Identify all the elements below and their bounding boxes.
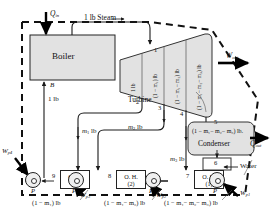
- w-p4-label: Wp4: [2, 148, 12, 155]
- state-point-8: 8: [108, 172, 111, 179]
- q-in-label: Qin: [50, 10, 59, 19]
- boiler-label: Boiler: [52, 52, 75, 61]
- pump-symbol-p3: P: [72, 188, 76, 195]
- m2-unit: lb: [135, 123, 142, 131]
- open-heater-2-name: O. H.: [117, 173, 145, 180]
- pump-1-hub: [215, 178, 221, 184]
- state-point-2: 2: [136, 98, 139, 105]
- pump-symbol-p2: P: [149, 188, 153, 195]
- bottom-flow-label-1: (1 − m₁) lb: [32, 200, 61, 207]
- water-label: Water: [240, 163, 257, 170]
- extraction-m3-label: m3 lb: [170, 156, 184, 163]
- turbine-stage-label-1: 1 lb: [130, 84, 136, 92]
- w-p1-subscript: p1: [246, 192, 250, 197]
- turbine-stage-label-4: (1 − m₁− m₂− m₃) lb: [196, 65, 202, 110]
- bottom-flow-label-3: (1 − m₁− m₂− m₃) lb: [164, 200, 218, 207]
- pump-4-hub: [31, 178, 37, 184]
- state-point-9: 9: [52, 172, 55, 179]
- state-point-4: 4: [180, 110, 183, 117]
- turbine-stage-label-2: (1 − m₁) lb: [152, 74, 158, 98]
- pump-2-hub: [151, 178, 157, 184]
- w-p4-subscript: p4: [8, 150, 12, 155]
- w-p3-label: Wp3: [80, 192, 90, 199]
- w-p3-subscript: p3: [86, 194, 90, 199]
- state-point-1: 1: [154, 46, 157, 53]
- state-point-6: 6: [214, 159, 217, 166]
- pump-3-hub: [74, 178, 80, 184]
- open-heater-2: O. H. (2): [116, 170, 146, 189]
- pump-symbol-p4: P: [31, 188, 35, 195]
- turbine-label: Turbine: [128, 96, 151, 104]
- open-heater-2-number: (2): [117, 180, 145, 187]
- pump-2: [145, 172, 161, 188]
- w-out-subscript: out: [232, 55, 238, 60]
- state-point-3: 3: [158, 104, 161, 111]
- q-out-subscript: out: [255, 143, 261, 148]
- steam-line-label: 1 lb Steam: [84, 14, 116, 22]
- state-point-7: 7: [186, 172, 189, 179]
- turbine-stage-label-3: (1 − m₁− m₂) lb: [174, 69, 180, 104]
- extraction-m2-pipe: [98, 104, 164, 170]
- q-out-label: Qout: [250, 140, 261, 149]
- pump-symbol-p1: P: [213, 188, 217, 195]
- pump-3: [68, 172, 84, 188]
- extraction-m2-label: m2 lb: [128, 124, 142, 131]
- condenser-label: Condenser: [198, 140, 230, 148]
- cycle-diagram: Boiler Turbine Condenser O. H. (3) O. H.…: [0, 0, 271, 220]
- state-point-5: 5: [214, 118, 217, 125]
- pump-1: [209, 172, 225, 188]
- extraction-m1-label: m1 lb: [82, 128, 96, 135]
- w-out-label: Wout: [226, 52, 238, 61]
- w-p1-label: Wp1: [240, 190, 250, 197]
- pump-4: [25, 172, 41, 188]
- q-in-subscript: in: [55, 13, 59, 18]
- boiler-outlet-marker: B: [50, 82, 54, 89]
- feedwater-1lb-label: 1 lb: [48, 96, 59, 103]
- condenser-flow-label: (1 − m₁− m₂− m₃) lb.: [192, 128, 243, 134]
- bottom-flow-label-2: (1 − m₁− m₂) lb: [104, 200, 145, 207]
- m1-unit: lb: [89, 127, 96, 135]
- m3-unit: lb: [177, 155, 184, 163]
